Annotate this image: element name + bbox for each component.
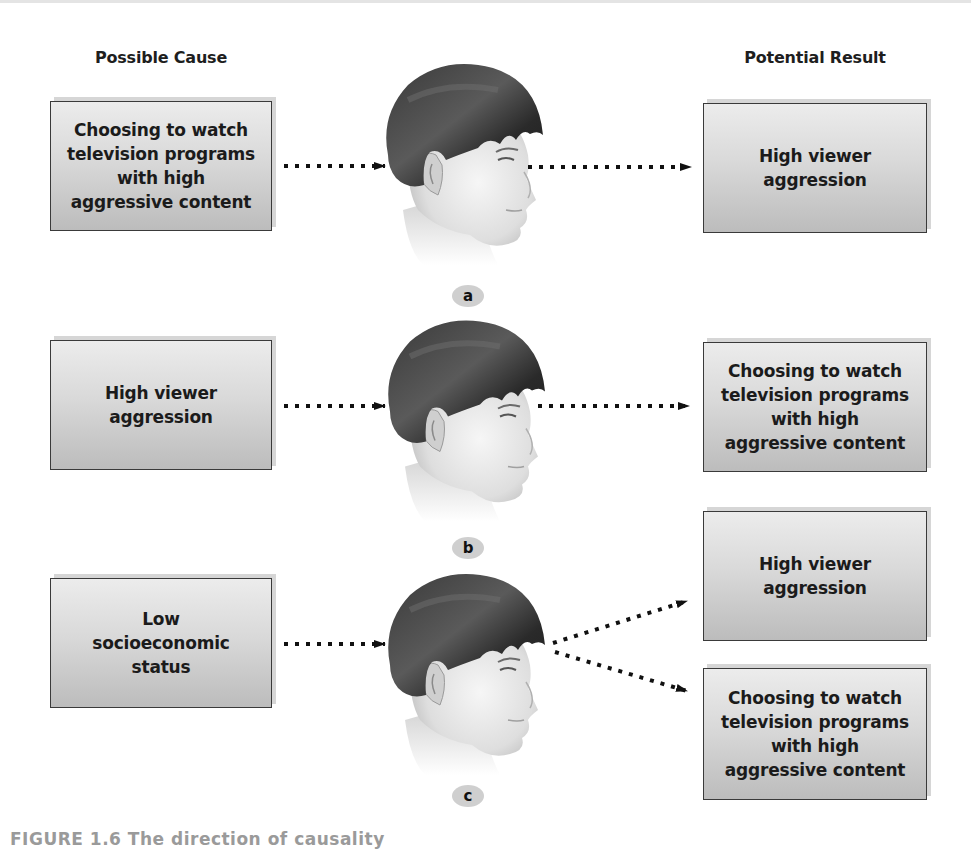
figure-caption: FIGURE 1.6 The direction of causality: [10, 829, 385, 849]
row-c-result-2-arrow: [555, 652, 687, 691]
row-c-result-1-arrow: [553, 601, 687, 643]
